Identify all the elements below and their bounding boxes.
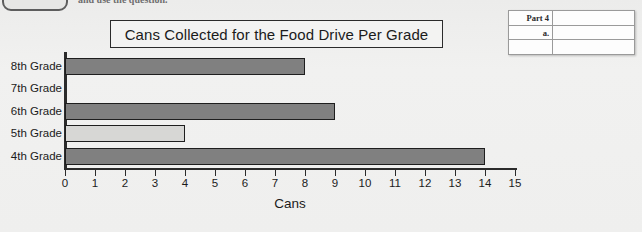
x-tick-label: 10 xyxy=(355,177,375,189)
x-tick xyxy=(155,170,156,176)
bar-row xyxy=(65,146,515,168)
x-tick xyxy=(515,170,516,176)
x-tick xyxy=(125,170,126,176)
x-tick xyxy=(395,170,396,176)
x-tick-label: 4 xyxy=(175,177,195,189)
x-tick xyxy=(95,170,96,176)
x-tick-label: 1 xyxy=(85,177,105,189)
y-tick-label: 6th Grade xyxy=(11,105,62,117)
x-tick-label: 12 xyxy=(415,177,435,189)
x-axis-title: Cans xyxy=(0,196,580,211)
x-tick-label: 15 xyxy=(505,177,525,189)
x-tick xyxy=(335,170,336,176)
chart-title-box: Cans Collected for the Food Drive Per Gr… xyxy=(110,20,443,48)
x-tick xyxy=(245,170,246,176)
y-tick-label: 8th Grade xyxy=(11,60,62,72)
x-tick xyxy=(485,170,486,176)
chart-title: Cans Collected for the Food Drive Per Gr… xyxy=(125,26,429,43)
x-tick-label: 13 xyxy=(445,177,465,189)
bar-8th-grade xyxy=(65,58,305,75)
x-tick xyxy=(275,170,276,176)
bar-chart: Cans Collected for the Food Drive Per Gr… xyxy=(0,0,642,232)
y-tick-label: 5th Grade xyxy=(11,127,62,139)
bar-6th-grade xyxy=(65,103,335,120)
x-axis-ticks: 0123456789101112131415 xyxy=(65,170,517,194)
plot-area xyxy=(65,56,515,168)
bar-row xyxy=(65,123,515,145)
x-tick xyxy=(65,170,66,176)
y-tick-label: 4th Grade xyxy=(11,150,62,162)
x-tick-label: 9 xyxy=(325,177,345,189)
x-tick-label: 7 xyxy=(265,177,285,189)
x-tick xyxy=(455,170,456,176)
y-axis-labels: 8th Grade7th Grade6th Grade5th Grade4th … xyxy=(0,56,62,168)
x-tick xyxy=(365,170,366,176)
x-tick-label: 5 xyxy=(205,177,225,189)
worksheet-page: and use the question. Part 4 a. Cans Col… xyxy=(0,0,642,232)
x-tick-label: 11 xyxy=(385,177,405,189)
x-tick-label: 2 xyxy=(115,177,135,189)
x-tick xyxy=(215,170,216,176)
x-tick-label: 14 xyxy=(475,177,495,189)
x-tick xyxy=(305,170,306,176)
bar-row xyxy=(65,78,515,100)
y-tick-label: 7th Grade xyxy=(11,82,62,94)
bar-row xyxy=(65,101,515,123)
x-tick-label: 0 xyxy=(55,177,75,189)
x-tick-label: 6 xyxy=(235,177,255,189)
x-tick-label: 3 xyxy=(145,177,165,189)
x-tick xyxy=(185,170,186,176)
bar-row xyxy=(65,56,515,78)
bar-5th-grade xyxy=(65,125,185,142)
x-tick xyxy=(425,170,426,176)
bar-4th-grade xyxy=(65,148,485,165)
x-tick-label: 8 xyxy=(295,177,315,189)
